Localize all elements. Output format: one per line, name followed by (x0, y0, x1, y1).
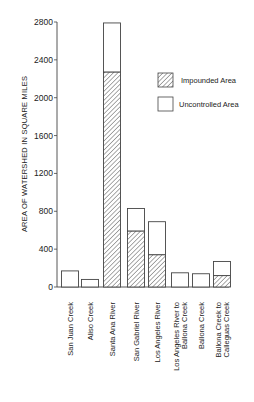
bar-segment-uncontrolled (149, 222, 166, 255)
bar-segment-uncontrolled (62, 271, 79, 287)
bar-segment-impounded (214, 276, 231, 287)
legend: Impounded Area Uncontrolled Area (158, 73, 239, 111)
bar (62, 271, 79, 287)
x-category-label: Ballona Creek (180, 302, 189, 349)
bar (128, 208, 145, 287)
bar-segment-uncontrolled (214, 261, 231, 275)
bar-segment-uncontrolled (172, 273, 189, 287)
y-tick-label: 0 (48, 282, 53, 292)
bar (193, 274, 210, 287)
y-tick-label: 2800 (34, 17, 53, 27)
legend-label-uncontrolled: Uncontrolled Area (179, 100, 239, 109)
x-category-label: Calleguas Creek (222, 302, 231, 358)
bar (172, 273, 189, 287)
legend-swatch-impounded (158, 73, 173, 87)
chart-svg: AREA OF WATERSHED IN SQUARE MILES 040080… (0, 0, 254, 402)
bar (214, 261, 231, 287)
bar (149, 222, 166, 287)
y-tick-label: 2000 (34, 93, 53, 103)
legend-swatch-uncontrolled (158, 97, 173, 111)
y-tick-label: 800 (39, 206, 53, 216)
bar-segment-impounded (104, 72, 121, 287)
x-category-label: Ballona Creek (197, 302, 206, 349)
x-category-label: San Gabriel River (132, 302, 141, 362)
bar (82, 279, 99, 287)
x-axis-labels: San Juan CreekAliso CreekSanta Ana River… (66, 302, 231, 371)
bar (104, 23, 121, 287)
y-axis-title: AREA OF WATERSHED IN SQUARE MILES (20, 76, 29, 232)
watershed-area-chart: AREA OF WATERSHED IN SQUARE MILES 040080… (0, 0, 254, 402)
y-tick-label: 1200 (34, 168, 53, 178)
bar-segment-uncontrolled (104, 23, 121, 72)
y-tick-label: 400 (39, 244, 53, 254)
legend-label-impounded: Impounded Area (181, 76, 237, 85)
y-tick-label: 2400 (34, 55, 53, 65)
x-category-label: Aliso Creek (86, 302, 95, 341)
bar-segment-uncontrolled (82, 279, 99, 287)
bar-segment-impounded (149, 255, 166, 287)
x-category-label: San Juan Creek (66, 302, 75, 356)
y-tick-label: 1600 (34, 131, 53, 141)
bar-segment-uncontrolled (128, 208, 145, 231)
bar-group (62, 23, 231, 287)
x-category-label: Los Angeles River (153, 302, 162, 363)
bar-segment-impounded (128, 231, 145, 287)
bar-segment-uncontrolled (193, 274, 210, 287)
x-category-label: Santa Ana River (108, 302, 117, 357)
